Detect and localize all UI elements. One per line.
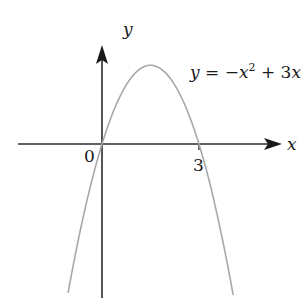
- diagram-canvas: y x 0 3 y = −x2 + 3x: [0, 0, 306, 305]
- x-axis-label: x: [287, 134, 297, 154]
- parabola-graph: y x 0 3 y = −x2 + 3x: [0, 0, 306, 305]
- origin-label: 0: [84, 146, 95, 166]
- equation-label: y = −x2 + 3x: [189, 61, 301, 82]
- parabola-curve: [68, 65, 233, 295]
- tick-label-3: 3: [193, 155, 204, 175]
- y-axis-label: y: [122, 19, 133, 39]
